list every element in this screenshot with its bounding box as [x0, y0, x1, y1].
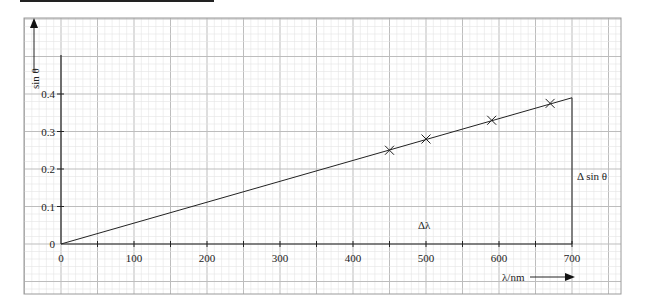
y-tick-label: 0.4 — [41, 88, 55, 100]
delta-lambda-label: Δλ — [418, 219, 431, 231]
delta-sin-label: Δ sin θ — [577, 170, 607, 182]
x-tick-label: 600 — [491, 252, 508, 264]
y-tick-label: 0.1 — [41, 201, 55, 213]
y-axis-label: sin θ — [29, 68, 41, 89]
x-tick-label: 300 — [272, 252, 289, 264]
x-tick-label: 500 — [418, 252, 435, 264]
plot-frame — [24, 18, 621, 294]
y-tick-label: 0 — [50, 238, 56, 250]
grid — [24, 18, 621, 294]
chart: 010020030040050060070000.10.20.30.4 sin … — [0, 0, 648, 308]
y-tick-label: 0.3 — [41, 126, 55, 138]
x-tick-label: 100 — [126, 252, 143, 264]
x-tick-label: 400 — [345, 252, 362, 264]
x-axis-label: λ/nm — [502, 271, 525, 283]
x-tick-label: 0 — [58, 252, 64, 264]
x-tick-label: 700 — [564, 252, 581, 264]
labels: sin θ Δλ Δ sin θ λ/nm — [29, 68, 607, 283]
y-tick-label: 0.2 — [41, 163, 55, 175]
x-tick-label: 200 — [199, 252, 216, 264]
